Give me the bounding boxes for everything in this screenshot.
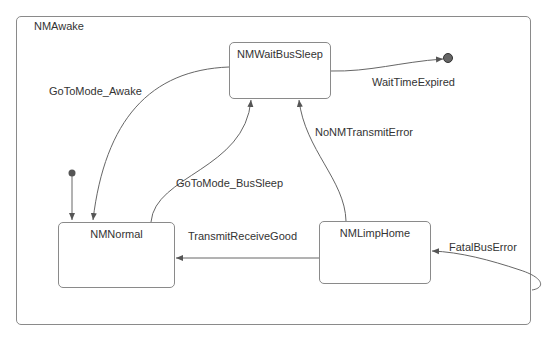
state-name: NMNormal [59, 228, 174, 240]
state-nmwaitbussleep[interactable]: NMWaitBusSleep [229, 42, 331, 99]
state-name: NMLimpHome [320, 227, 430, 239]
transition-label-fatalbuserror: FatalBusError [449, 241, 517, 253]
state-diagram: NMAwake NMWaitBusSleep [0, 0, 555, 337]
transition-label-nonmtransmiterror: NoNMTransmitError [315, 126, 413, 138]
transition-label-waittimeexpired: WaitTimeExpired [372, 76, 455, 88]
transition-label-gotomode-bussleep: GoToMode_BusSleep [176, 177, 283, 189]
initial-state-dot [69, 170, 76, 177]
final-state-dot [444, 54, 453, 63]
transition-label-gotomode-awake: GoToMode_Awake [49, 85, 142, 97]
state-nmlimphome[interactable]: NMLimpHome [319, 221, 431, 284]
transition-label-transmitreceivegood: TransmitReceiveGood [188, 230, 297, 242]
state-nmnormal[interactable]: NMNormal [58, 222, 175, 288]
state-name: NMWaitBusSleep [230, 48, 330, 60]
